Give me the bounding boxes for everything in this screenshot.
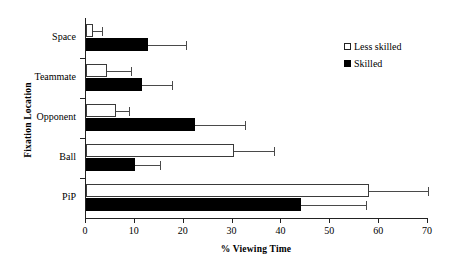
bar-skilled-ball bbox=[86, 158, 135, 171]
bar-less-skilled-teammate bbox=[86, 64, 107, 77]
x-tick-label: 20 bbox=[163, 225, 203, 236]
x-tick bbox=[329, 218, 330, 223]
error-bar-line bbox=[142, 85, 173, 86]
x-tick bbox=[232, 218, 233, 223]
error-bar-cap bbox=[366, 201, 367, 210]
x-tick bbox=[183, 218, 184, 223]
bar-skilled-opponent bbox=[86, 118, 195, 131]
error-bar-cap bbox=[131, 67, 132, 76]
x-tick-label: 0 bbox=[65, 225, 105, 236]
bar-less-skilled-space bbox=[86, 24, 93, 37]
x-tick bbox=[85, 218, 86, 223]
x-tick-label: 30 bbox=[212, 225, 252, 236]
legend-swatch-dark bbox=[344, 60, 351, 67]
bar-chart: Fixation Location 010203040506070 SpaceT… bbox=[0, 0, 452, 270]
bar-less-skilled-opponent bbox=[86, 104, 116, 117]
error-bar-line bbox=[135, 165, 160, 166]
y-tick bbox=[80, 178, 85, 179]
y-category-label: Ball bbox=[0, 151, 76, 162]
y-category-label: Teammate bbox=[0, 71, 76, 82]
error-bar-cap bbox=[129, 107, 130, 116]
y-category-label: PiP bbox=[0, 191, 76, 202]
error-bar-line bbox=[148, 45, 187, 46]
error-bar-cap bbox=[186, 41, 187, 50]
y-category-label: Opponent bbox=[0, 111, 76, 122]
x-axis-label: % Viewing Time bbox=[85, 244, 427, 254]
legend-item: Less skilled bbox=[344, 38, 452, 55]
error-bar-cap bbox=[102, 27, 103, 36]
x-tick-label: 40 bbox=[260, 225, 300, 236]
error-bar-line bbox=[301, 205, 366, 206]
error-bar-cap bbox=[172, 81, 173, 90]
x-tick bbox=[378, 218, 379, 223]
error-bar-line bbox=[369, 191, 428, 192]
error-bar-line bbox=[107, 71, 131, 72]
y-category-label: Space bbox=[0, 31, 76, 42]
error-bar-line bbox=[116, 111, 129, 112]
x-tick bbox=[427, 218, 428, 223]
x-tick bbox=[134, 218, 135, 223]
legend-label: Less skilled bbox=[354, 41, 402, 52]
bar-skilled-pip bbox=[86, 198, 301, 211]
bar-skilled-teammate bbox=[86, 78, 142, 91]
error-bar-line bbox=[234, 151, 275, 152]
x-tick-label: 70 bbox=[407, 225, 447, 236]
legend-label: Skilled bbox=[354, 58, 382, 69]
y-tick bbox=[80, 98, 85, 99]
error-bar-line bbox=[93, 31, 102, 32]
error-bar-cap bbox=[160, 161, 161, 170]
legend-swatch-light bbox=[344, 43, 351, 50]
y-tick bbox=[80, 58, 85, 59]
error-bar-cap bbox=[274, 147, 275, 156]
x-tick-label: 50 bbox=[309, 225, 349, 236]
x-tick bbox=[280, 218, 281, 223]
x-axis-line bbox=[85, 218, 428, 219]
error-bar-line bbox=[195, 125, 245, 126]
error-bar-cap bbox=[428, 187, 429, 196]
legend-item: Skilled bbox=[344, 55, 452, 72]
bar-less-skilled-pip bbox=[86, 184, 369, 197]
legend: Less skilledSkilled bbox=[344, 38, 452, 72]
x-tick-label: 60 bbox=[358, 225, 398, 236]
y-tick bbox=[80, 138, 85, 139]
error-bar-cap bbox=[245, 121, 246, 130]
x-tick-label: 10 bbox=[114, 225, 154, 236]
bar-less-skilled-ball bbox=[86, 144, 234, 157]
bar-skilled-space bbox=[86, 38, 148, 51]
